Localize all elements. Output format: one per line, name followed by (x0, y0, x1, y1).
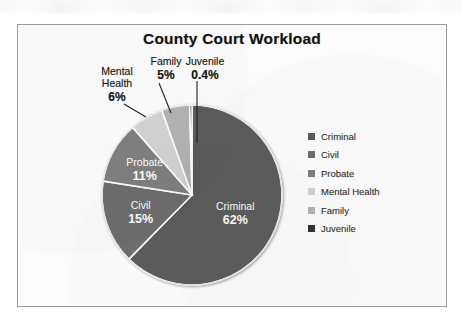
legend-swatch-icon (308, 225, 315, 232)
legend-label: Family (321, 205, 349, 216)
slice-value-criminal: 62% (223, 213, 248, 227)
slice-value-probate: 11% (133, 169, 157, 183)
slice-value-civil: 15% (128, 212, 153, 226)
legend-item-civil[interactable]: Civil (308, 147, 380, 163)
legend-swatch-icon (308, 207, 315, 214)
slice-label-mental-health: Mental Health 6% (89, 66, 145, 104)
legend-swatch-icon (308, 170, 315, 177)
legend-swatch-icon (308, 188, 315, 195)
pie-svg: Criminal62%Civil15%Probate11% (96, 99, 288, 291)
chart-frame: County Court Workload Criminal62%Civil15… (17, 24, 447, 307)
slice-label-juvenile: Juvenile 0.4% (176, 56, 234, 82)
legend-item-juvenile[interactable]: Juvenile (308, 221, 380, 237)
legend-swatch-icon (308, 133, 315, 140)
scan-edge-artifact (0, 0, 462, 13)
legend-item-probate[interactable]: Probate (308, 165, 380, 181)
slice-label-probate: Probate (126, 156, 163, 168)
slice-value-mental-health: 6% (89, 91, 145, 104)
legend-swatch-icon (308, 151, 315, 158)
slice-label-mental-health-line1: Mental (101, 65, 133, 77)
chart-legend: CriminalCivilProbateMental HealthFamilyJ… (308, 128, 380, 239)
slice-label-criminal: Criminal (216, 200, 255, 212)
legend-item-criminal[interactable]: Criminal (308, 128, 380, 144)
legend-label: Juvenile (321, 223, 356, 234)
legend-item-family[interactable]: Family (308, 202, 380, 218)
pie-slices (102, 105, 282, 285)
slice-label-mental-health-line2: Health (102, 77, 132, 89)
legend-item-mental-health[interactable]: Mental Health (308, 184, 380, 200)
legend-label: Mental Health (321, 186, 380, 197)
pie-chart: Criminal62%Civil15%Probate11% (96, 99, 288, 291)
legend-label: Civil (321, 149, 339, 160)
legend-label: Criminal (321, 131, 356, 142)
slice-label-civil: Civil (131, 199, 151, 211)
slice-label-juvenile-line1: Juvenile (186, 55, 225, 67)
slice-value-juvenile: 0.4% (176, 69, 234, 82)
chart-title: County Court Workload (18, 30, 446, 48)
legend-label: Probate (321, 168, 354, 179)
